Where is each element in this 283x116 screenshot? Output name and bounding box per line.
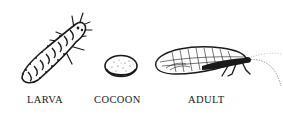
cocoon-stage: [100, 52, 142, 82]
larva-stage: [14, 8, 94, 88]
adult-stage: [152, 40, 283, 90]
larva-label: LARVA: [27, 95, 63, 106]
cocoon-label: COCOON: [94, 95, 141, 106]
cocoon-icon: [100, 52, 142, 82]
adult-label: ADULT: [188, 95, 225, 106]
adult-lacewing-icon: [152, 40, 283, 90]
larva-icon: [14, 8, 94, 88]
